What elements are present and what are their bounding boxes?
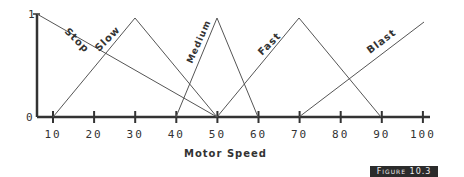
y-tick-0: 0 xyxy=(26,111,35,124)
fuzzy-membership-chart: 1 0 102030405060708090100 Stop Slow Medi… xyxy=(0,0,464,177)
figure-label: Figure 10.3 xyxy=(370,166,438,177)
label-medium: Medium xyxy=(185,18,213,64)
x-tick-label: 40 xyxy=(168,128,185,141)
x-tick-label: 70 xyxy=(291,128,308,141)
series-fast xyxy=(217,18,381,117)
x-tick-label: 30 xyxy=(127,128,144,141)
x-ticks: 102030405060708090100 xyxy=(44,111,435,141)
x-tick-label: 50 xyxy=(209,128,226,141)
x-tick-label: 80 xyxy=(332,128,349,141)
y-tick-1: 1 xyxy=(28,8,37,21)
label-stop: Stop xyxy=(63,26,92,55)
series-medium xyxy=(176,18,258,117)
series-blast xyxy=(299,22,424,117)
membership-functions xyxy=(37,14,424,117)
label-blast: Blast xyxy=(365,27,398,56)
x-tick-label: 10 xyxy=(44,128,61,141)
x-tick-label: 20 xyxy=(85,128,102,141)
x-axis-label: Motor Speed xyxy=(184,148,267,159)
x-tick-label: 100 xyxy=(410,128,436,141)
series-stop xyxy=(37,14,217,117)
x-tick-label: 90 xyxy=(373,128,390,141)
x-tick-label: 60 xyxy=(250,128,267,141)
